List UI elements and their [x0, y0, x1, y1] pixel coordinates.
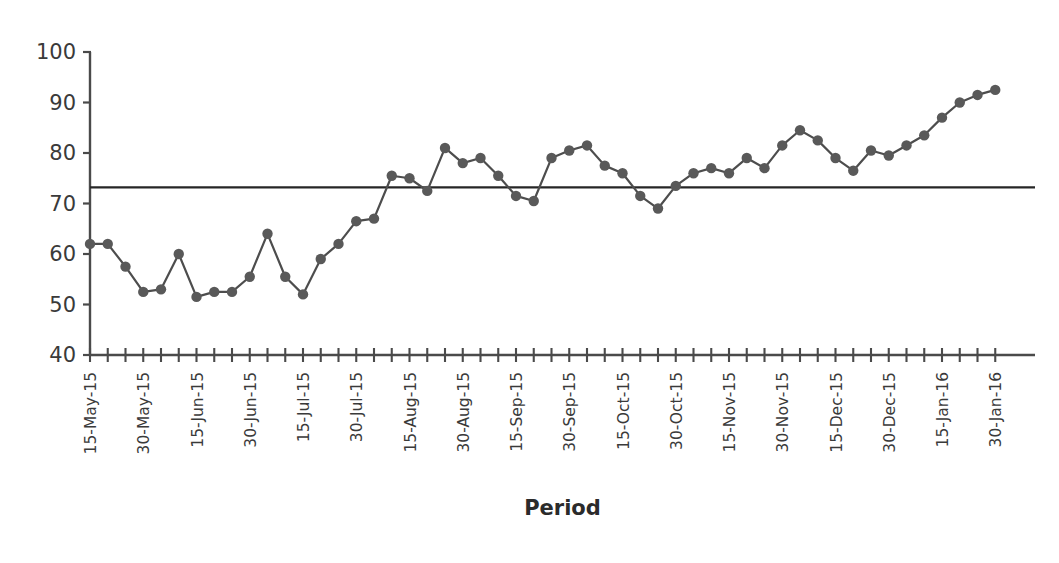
data-point-marker — [422, 186, 432, 196]
data-point-marker — [688, 168, 698, 178]
x-axis-group: 15-May-1530-May-1515-Jun-1530-Jun-1515-J… — [82, 348, 1035, 454]
data-point-marker — [511, 191, 521, 201]
data-point-marker — [440, 143, 450, 153]
data-point-marker — [759, 163, 769, 173]
data-point-marker — [493, 171, 503, 181]
data-point-marker — [316, 254, 326, 264]
data-point-marker — [724, 168, 734, 178]
x-axis-tick-label: 30-Nov-15 — [774, 372, 792, 452]
data-point-marker — [617, 168, 627, 178]
data-point-marker — [138, 287, 148, 297]
data-point-marker — [262, 229, 272, 239]
x-axis-tick-label: 30-Jun-15 — [242, 372, 260, 448]
y-axis-tick-label: 80 — [49, 141, 76, 165]
line-chart: 405060708090100 15-May-1530-May-1515-Jun… — [0, 0, 1059, 563]
y-axis-tick-label: 100 — [36, 40, 76, 64]
data-point-marker — [280, 272, 290, 282]
data-point-marker — [174, 249, 184, 259]
x-axis-tick-labels: 15-May-1530-May-1515-Jun-1530-Jun-1515-J… — [82, 372, 1005, 454]
x-axis-tick-label: 30-Dec-15 — [881, 372, 899, 453]
y-axis-tick-labels: 405060708090100 — [36, 40, 76, 367]
data-point-marker — [404, 173, 414, 183]
x-axis-tick-label: 15-Jan-16 — [934, 372, 952, 447]
data-point-marker — [227, 287, 237, 297]
data-point-marker — [245, 272, 255, 282]
data-point-marker — [209, 287, 219, 297]
data-point-marker — [901, 140, 911, 150]
data-point-marker — [742, 153, 752, 163]
chart-canvas: 405060708090100 15-May-1530-May-1515-Jun… — [0, 0, 1059, 563]
data-point-marker — [653, 203, 663, 213]
data-point-marker — [103, 239, 113, 249]
series-markers — [85, 85, 1001, 302]
data-point-marker — [884, 150, 894, 160]
data-point-marker — [635, 191, 645, 201]
data-point-marker — [458, 158, 468, 168]
x-axis-tick-label: 15-Oct-15 — [615, 372, 633, 450]
x-axis-tick-label: 30-Jul-15 — [348, 372, 366, 442]
x-axis-tick-label: 15-Dec-15 — [828, 372, 846, 453]
x-axis-tick-label: 15-Jun-15 — [189, 372, 207, 448]
data-point-marker — [582, 140, 592, 150]
data-point-marker — [156, 284, 166, 294]
data-point-marker — [813, 135, 823, 145]
x-axis-title: Period — [524, 496, 601, 520]
data-point-marker — [795, 125, 805, 135]
y-axis-tick-label: 90 — [49, 91, 76, 115]
data-point-marker — [191, 292, 201, 302]
y-axis-tick-label: 40 — [49, 343, 76, 367]
data-point-marker — [298, 289, 308, 299]
data-point-marker — [529, 196, 539, 206]
x-axis-tick-label: 15-May-15 — [82, 372, 100, 454]
y-axis-group: 405060708090100 — [36, 40, 91, 367]
series-line — [90, 90, 995, 297]
data-point-marker — [333, 239, 343, 249]
x-axis-tick-label: 30-Aug-15 — [455, 372, 473, 453]
data-point-marker — [351, 216, 361, 226]
data-point-marker — [777, 140, 787, 150]
data-point-marker — [972, 90, 982, 100]
data-point-marker — [120, 261, 130, 271]
data-point-marker — [955, 97, 965, 107]
data-point-marker — [387, 171, 397, 181]
data-point-marker — [564, 145, 574, 155]
x-axis-tick-label: 15-Jul-15 — [295, 372, 313, 442]
x-axis-tick-label: 15-Aug-15 — [402, 372, 420, 453]
x-axis-tick-label: 15-Nov-15 — [721, 372, 739, 452]
x-axis-tick-label: 30-Sep-15 — [561, 372, 579, 452]
data-point-marker — [369, 213, 379, 223]
data-point-marker — [919, 130, 929, 140]
data-point-marker — [937, 112, 947, 122]
y-axis-tick-label: 70 — [49, 192, 76, 216]
x-axis-tick-label: 30-Jan-16 — [987, 372, 1005, 447]
data-point-marker — [85, 239, 95, 249]
data-point-marker — [866, 145, 876, 155]
x-axis-tick-label: 30-Oct-15 — [668, 372, 686, 450]
x-axis-tick-label: 30-May-15 — [135, 372, 153, 454]
data-point-marker — [671, 181, 681, 191]
data-point-marker — [546, 153, 556, 163]
data-point-marker — [830, 153, 840, 163]
data-point-marker — [706, 163, 716, 173]
data-point-marker — [475, 153, 485, 163]
y-axis-tick-label: 60 — [49, 242, 76, 266]
y-axis-tick-label: 50 — [49, 293, 76, 317]
data-point-marker — [990, 85, 1000, 95]
data-point-marker — [600, 160, 610, 170]
data-point-marker — [848, 165, 858, 175]
x-axis-tick-label: 15-Sep-15 — [508, 372, 526, 452]
